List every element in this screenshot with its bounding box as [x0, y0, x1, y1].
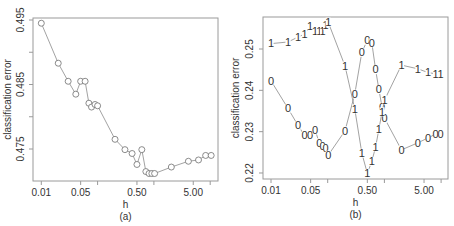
- data-point-symbol-0: 0: [342, 125, 348, 137]
- data-point-marker: [208, 152, 214, 158]
- y-tick-label: 0.25: [244, 39, 255, 59]
- x-tick-label: 0.50: [127, 187, 147, 198]
- y-tick-label: 0.495: [15, 7, 26, 32]
- x-tick-label: 0.05: [301, 185, 321, 196]
- data-point-symbol-0: 0: [285, 102, 291, 114]
- data-point-symbol-0: 0: [369, 37, 375, 49]
- data-point-symbol-1: 1: [352, 103, 358, 115]
- y-tick-label: 0.475: [15, 136, 26, 161]
- data-point-marker: [134, 161, 140, 167]
- panel-label: (b): [349, 209, 361, 220]
- data-point-symbol-0: 0: [325, 149, 331, 161]
- chart-a-plot: 0.010.050.505.000.4950.4850.475h(a)class…: [0, 0, 227, 226]
- y-tick-label: 0.24: [244, 80, 255, 100]
- data-point-symbol-1: 1: [364, 167, 370, 179]
- chart-panel-b: 0.010.050.505.000.250.240.230.22h(b)clas…: [227, 0, 454, 226]
- x-axis-label: h: [353, 197, 359, 208]
- data-point-marker: [196, 157, 202, 163]
- data-point-symbol-1: 1: [415, 63, 421, 75]
- data-point-marker: [185, 158, 191, 164]
- x-tick-label: 0.50: [358, 185, 378, 196]
- data-point-symbol-0: 0: [295, 119, 301, 131]
- data-point-marker: [129, 151, 135, 157]
- data-point-symbol-1: 1: [342, 60, 348, 72]
- data-point-symbol-0: 0: [359, 46, 365, 58]
- x-tick-label: 5.00: [184, 187, 204, 198]
- data-point-marker: [55, 60, 61, 66]
- x-tick-label: 0.01: [32, 187, 52, 198]
- data-point-marker: [82, 78, 88, 84]
- data-point-marker: [38, 20, 44, 26]
- data-point-symbol-0: 0: [373, 63, 379, 75]
- data-point-symbol-0: 0: [268, 75, 274, 87]
- data-point-marker: [168, 164, 174, 170]
- data-point-symbol-1: 1: [398, 59, 404, 71]
- data-point-symbol-1: 1: [285, 36, 291, 48]
- data-point-marker: [152, 171, 158, 177]
- data-point-marker: [73, 91, 79, 97]
- y-tick-label: 0.485: [15, 72, 26, 97]
- data-point-symbol-1: 1: [369, 155, 375, 167]
- y-tick-label: 0.23: [244, 121, 255, 141]
- data-point-symbol-0: 0: [438, 128, 444, 140]
- y-axis-label: classification error: [230, 57, 241, 138]
- data-point-symbol-1: 1: [379, 106, 385, 118]
- data-point-marker: [112, 136, 118, 142]
- chart-b-plot: 0.010.050.505.000.250.240.230.22h(b)clas…: [227, 0, 454, 226]
- chart-panel-a: 0.010.050.505.000.4950.4850.475h(a)class…: [0, 0, 227, 226]
- data-point-symbol-1: 1: [382, 94, 388, 106]
- data-point-symbol-1: 1: [295, 31, 301, 43]
- data-point-symbol-0: 0: [312, 124, 318, 136]
- data-point-symbol-1: 1: [325, 16, 331, 28]
- data-point-symbol-1: 1: [376, 123, 382, 135]
- data-point-symbol-1: 1: [438, 68, 444, 80]
- data-point-symbol-0: 0: [398, 144, 404, 156]
- data-point-symbol-1: 1: [359, 147, 365, 159]
- x-tick-label: 0.01: [261, 185, 281, 196]
- data-point-marker: [65, 78, 71, 84]
- data-point-symbol-0: 0: [415, 137, 421, 149]
- data-point-symbol-1: 1: [373, 141, 379, 153]
- y-axis-label: classification error: [2, 59, 13, 140]
- y-tick-label: 0.22: [244, 163, 255, 183]
- x-tick-label: 0.05: [71, 187, 91, 198]
- data-point-symbol-1: 1: [425, 66, 431, 78]
- data-point-marker: [95, 103, 101, 109]
- panel-label: (a): [119, 211, 131, 222]
- data-point-marker: [139, 147, 145, 153]
- data-point-symbol-0: 0: [425, 132, 431, 144]
- data-point-symbol-1: 1: [268, 37, 274, 49]
- x-axis-label: h: [123, 199, 129, 210]
- data-point-marker: [203, 152, 209, 158]
- data-point-marker: [122, 147, 128, 153]
- x-tick-label: 5.00: [414, 185, 434, 196]
- plot-frame: [33, 18, 218, 181]
